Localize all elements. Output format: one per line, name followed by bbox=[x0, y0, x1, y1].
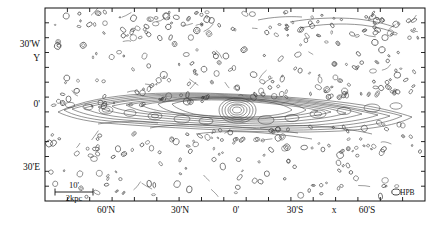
x-tick-label-0: 0' bbox=[219, 205, 253, 215]
y-tick-label-0: 0' bbox=[2, 99, 40, 109]
y-tick-label-30e: 30'E bbox=[2, 162, 40, 172]
x-tick-label-60n: 60'N bbox=[85, 205, 127, 215]
beam-label: HPB bbox=[400, 188, 415, 197]
x-tick-label-30n: 30'N bbox=[159, 205, 201, 215]
contour-map-figure: 30'W Y 0' 30'E 60'N 30'N 0' 30'S x 60'S … bbox=[0, 0, 438, 228]
scalebar-angular-label: 10' bbox=[56, 180, 92, 190]
x-tick-label-30s: 30'S bbox=[274, 205, 316, 215]
x-tick-label-60s: 60'S bbox=[346, 205, 388, 215]
x-axis-title: x bbox=[327, 205, 341, 215]
y-axis-title: Y bbox=[2, 53, 40, 63]
y-tick-label-30w: 30'W bbox=[2, 39, 40, 49]
scalebar-physical-label: 2kpc bbox=[56, 193, 92, 203]
